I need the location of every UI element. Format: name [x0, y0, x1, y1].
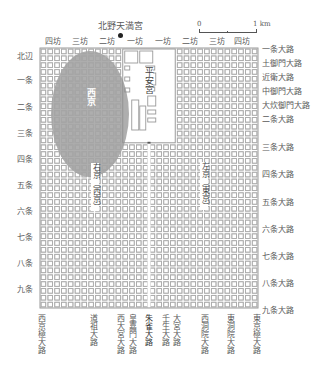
jo-label: 七条 [17, 234, 33, 242]
bo-label: 二坊 [182, 38, 198, 46]
road-label: 九条大路 [262, 307, 294, 315]
jo-label: 四条 [17, 156, 33, 164]
bo-label: 四坊 [234, 38, 250, 46]
road-label: 西洞院大路 [199, 314, 207, 354]
road-label: 壬生大路 [160, 314, 168, 346]
road-label: 大炊御門大路 [262, 102, 310, 110]
road-label: 二条大路 [262, 116, 294, 124]
palace-label: 平安宮 [144, 67, 153, 94]
road-label: 近衛大路 [262, 74, 294, 82]
scale-end: 1 km [253, 21, 271, 28]
jo-label: 北辺 [17, 53, 33, 61]
road-label: 五条大路 [262, 199, 294, 207]
road-label: 八条大路 [262, 280, 294, 288]
scale-tick-left [199, 29, 200, 33]
scale-start: 0 [197, 21, 201, 28]
jo-label: 五条 [17, 182, 33, 190]
bo-label: 三坊 [209, 38, 225, 46]
ukyo-label: 右京（西京） [91, 163, 99, 211]
road-label: 道祖大路 [88, 314, 96, 346]
bo-label: 四坊 [45, 38, 61, 46]
road-label: 東京極大路 [251, 314, 259, 354]
road-label: 大宮大路 [171, 314, 179, 346]
bo-label: 一坊 [155, 38, 171, 46]
road-label: 四条大路 [262, 171, 294, 179]
road-label: 七条大路 [262, 253, 294, 261]
kitano-tenmangu-label: 北野天満宮 [98, 22, 143, 31]
sakyo-label: 左京（東京） [200, 162, 208, 210]
bo-label: 一坊 [127, 38, 143, 46]
nishi-kyo-label: 西京 [86, 88, 95, 106]
scale-tick-mid [227, 31, 228, 33]
road-label: 朱雀大路 [143, 314, 151, 346]
road-label: 三条大路 [262, 144, 294, 152]
road-label: 東洞院大路 [225, 314, 233, 354]
road-label: 西京極大路 [36, 314, 44, 354]
jo-label: 九条 [17, 286, 33, 294]
jo-label: 一条 [17, 77, 33, 85]
heian-palace-area [123, 49, 176, 144]
bo-label: 三坊 [72, 38, 88, 46]
road-label: 中御門大路 [262, 88, 302, 96]
road-label: 一条大路 [262, 46, 294, 54]
road-label: 土御門大路 [262, 60, 302, 68]
road-label: 六条大路 [262, 226, 294, 234]
bo-label: 二坊 [99, 38, 115, 46]
jo-label: 三条 [17, 130, 33, 138]
road-label: 皇嘉門大路 [127, 314, 135, 354]
scale-tick-right [256, 29, 257, 33]
jo-label: 二条 [17, 104, 33, 112]
dot-marker-icon [118, 33, 123, 38]
jo-label: 八条 [17, 260, 33, 268]
road-label: 西大宮大路 [115, 314, 123, 354]
jo-label: 六条 [17, 208, 33, 216]
